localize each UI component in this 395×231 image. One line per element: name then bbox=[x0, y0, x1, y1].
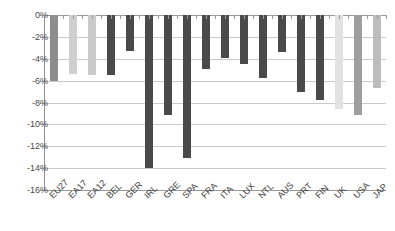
x-axis-minor-tick bbox=[348, 15, 349, 19]
bar-eu27 bbox=[50, 15, 58, 81]
x-axis-minor-tick bbox=[339, 15, 340, 19]
x-axis-minor-tick bbox=[320, 15, 321, 19]
bar-aus bbox=[278, 15, 286, 52]
bar-ger bbox=[126, 15, 134, 51]
x-axis-minor-tick bbox=[120, 15, 121, 19]
bar-usa bbox=[354, 15, 362, 115]
x-axis-minor-tick bbox=[92, 15, 93, 19]
bar-ita bbox=[221, 15, 229, 58]
bar-ea17 bbox=[69, 15, 77, 74]
x-axis-minor-tick bbox=[272, 15, 273, 19]
bar-uk bbox=[335, 15, 343, 109]
x-axis-minor-tick bbox=[367, 15, 368, 19]
bar-chart: 0%-2%-4%-6%-8%-10%-12%-14%-16% EU27EA17E… bbox=[0, 0, 395, 231]
y-axis-tick-mark bbox=[40, 103, 44, 104]
x-axis-minor-tick bbox=[291, 15, 292, 19]
x-axis-minor-tick bbox=[263, 15, 264, 19]
x-axis-minor-tick bbox=[54, 15, 55, 19]
y-axis-tick-mark bbox=[40, 81, 44, 82]
x-axis-minor-tick bbox=[44, 15, 45, 19]
x-axis-minor-tick bbox=[310, 15, 311, 19]
plot-area bbox=[44, 15, 386, 190]
bar-fin bbox=[316, 15, 324, 100]
x-axis-minor-tick bbox=[206, 15, 207, 19]
x-axis-minor-tick bbox=[244, 15, 245, 19]
bar-bel bbox=[107, 15, 115, 75]
bar-gre bbox=[164, 15, 172, 115]
bar-prt bbox=[297, 15, 305, 92]
x-axis-minor-tick bbox=[196, 15, 197, 19]
y-axis-tick-mark bbox=[40, 146, 44, 147]
y-axis-tick-mark bbox=[40, 37, 44, 38]
gridline-neg14 bbox=[44, 168, 386, 169]
x-axis-minor-tick bbox=[130, 15, 131, 19]
gridline-neg10 bbox=[44, 124, 386, 125]
bar-ntl bbox=[259, 15, 267, 78]
x-axis-minor-tick bbox=[82, 15, 83, 19]
x-axis-minor-tick bbox=[282, 15, 283, 19]
x-axis-minor-tick bbox=[63, 15, 64, 19]
x-axis-minor-tick bbox=[358, 15, 359, 19]
x-axis-minor-tick bbox=[139, 15, 140, 19]
x-axis-minor-tick bbox=[187, 15, 188, 19]
gridline-neg12 bbox=[44, 146, 386, 147]
x-axis-minor-tick bbox=[149, 15, 150, 19]
x-axis-minor-tick bbox=[225, 15, 226, 19]
x-axis-minor-tick bbox=[377, 15, 378, 19]
bar-irl bbox=[145, 15, 153, 168]
x-axis-minor-tick bbox=[158, 15, 159, 19]
x-axis-minor-tick bbox=[111, 15, 112, 19]
x-axis-minor-tick bbox=[73, 15, 74, 19]
bar-jap bbox=[373, 15, 381, 88]
x-axis-minor-tick bbox=[329, 15, 330, 19]
x-axis-minor-tick bbox=[101, 15, 102, 19]
x-axis-minor-tick bbox=[386, 15, 387, 19]
y-axis-tick-mark bbox=[40, 124, 44, 125]
x-axis-minor-tick bbox=[253, 15, 254, 19]
bar-spa bbox=[183, 15, 191, 158]
x-axis-minor-tick bbox=[301, 15, 302, 19]
x-axis-minor-tick bbox=[177, 15, 178, 19]
y-axis-tick-mark bbox=[40, 59, 44, 60]
bar-ea12 bbox=[88, 15, 96, 75]
y-axis-tick-mark bbox=[40, 168, 44, 169]
y-axis-tick-mark bbox=[40, 190, 44, 191]
x-axis-minor-tick bbox=[215, 15, 216, 19]
bar-fra bbox=[202, 15, 210, 69]
bar-lux bbox=[240, 15, 248, 64]
x-axis-minor-tick bbox=[168, 15, 169, 19]
x-axis-minor-tick bbox=[234, 15, 235, 19]
